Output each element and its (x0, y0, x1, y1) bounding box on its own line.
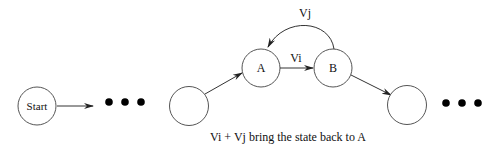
ellipsis-dot (105, 98, 113, 106)
edge-left-to-a (205, 73, 242, 94)
node-start: Start (18, 87, 56, 125)
ellipsis-dot (442, 99, 450, 107)
node-start-label: Start (27, 100, 48, 112)
ellipsis-dot (458, 99, 466, 107)
ellipsis-left (105, 98, 145, 106)
node-unnamed-right (388, 86, 427, 125)
node-b-label: B (329, 61, 337, 75)
edge-a-to-b-label: Vi (290, 51, 302, 65)
node-a-label: A (257, 61, 266, 75)
edge-b-to-a-label: Vj (299, 6, 311, 20)
edge-b-to-a (268, 25, 334, 49)
ellipsis-right (442, 99, 482, 107)
state-diagram: Start A Vi B Vj Vi + Vj bring the state … (0, 0, 498, 146)
node-unnamed-left (170, 87, 209, 126)
ellipsis-dot (137, 98, 145, 106)
ellipsis-dot (474, 99, 482, 107)
diagram-caption: Vi + Vj bring the state back to A (210, 130, 366, 144)
ellipsis-dot (121, 98, 129, 106)
node-a: A (242, 49, 280, 87)
node-b: B (314, 49, 352, 87)
edge-b-to-right (351, 75, 391, 95)
